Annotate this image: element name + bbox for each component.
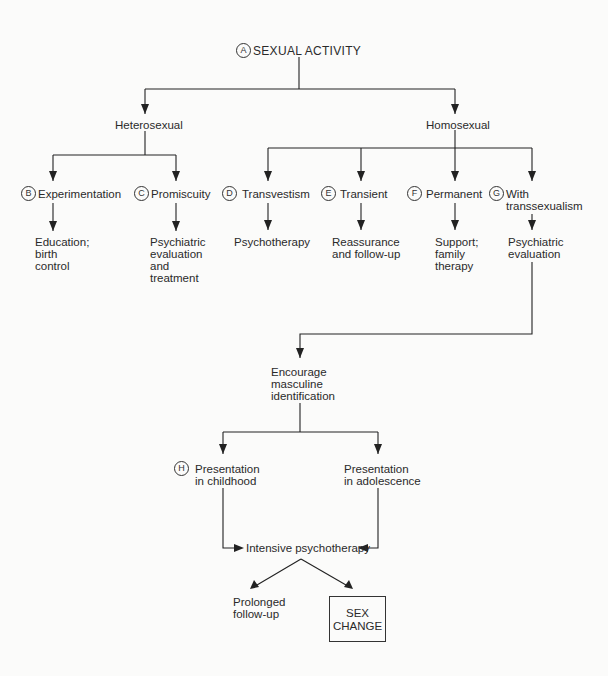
node-transvestism: Transvestism bbox=[242, 188, 310, 200]
node-intensive-psychotherapy: Intensive psychotherapy bbox=[246, 542, 370, 554]
badge-h: H bbox=[174, 461, 189, 476]
node-promiscuity: Promiscuity bbox=[151, 188, 210, 200]
badge-b: B bbox=[21, 186, 36, 201]
node-support-family-therapy: Support; family therapy bbox=[435, 236, 478, 272]
node-experimentation: Experimentation bbox=[38, 188, 121, 200]
node-psychotherapy: Psychotherapy bbox=[234, 236, 310, 248]
node-transient: Transient bbox=[340, 188, 388, 200]
node-reassurance-follow-up: Reassurance and follow-up bbox=[332, 236, 400, 260]
badge-g: G bbox=[489, 186, 504, 201]
node-prolonged-follow-up: Prolonged follow-up bbox=[233, 596, 285, 620]
node-psychiatric-evaluation-treatment: Psychiatric evaluation and treatment bbox=[150, 236, 206, 284]
node-sex-change-box: SEX CHANGE bbox=[329, 596, 386, 642]
node-homosexual: Homosexual bbox=[426, 119, 490, 131]
badge-f: F bbox=[407, 186, 422, 201]
connector-lines bbox=[0, 0, 608, 676]
node-permanent: Permanent bbox=[426, 188, 482, 200]
node-psychiatric-evaluation: Psychiatric evaluation bbox=[508, 236, 564, 260]
badge-e: E bbox=[321, 186, 336, 201]
badge-d: D bbox=[222, 186, 237, 201]
node-presentation-childhood: Presentation in childhood bbox=[195, 463, 260, 487]
node-sexual-activity: SEXUAL ACTIVITY bbox=[253, 45, 361, 57]
node-with-transsexualism: With transsexualism bbox=[506, 188, 583, 212]
node-education-birth-control: Education; birth control bbox=[35, 236, 89, 272]
flowchart-canvas: A SEXUAL ACTIVITY Heterosexual Homosexua… bbox=[0, 0, 608, 676]
node-heterosexual: Heterosexual bbox=[115, 119, 183, 131]
node-encourage-masculine-identification: Encourage masculine identification bbox=[271, 366, 335, 402]
badge-c: C bbox=[134, 186, 149, 201]
node-presentation-adolescence: Presentation in adolescence bbox=[344, 463, 421, 487]
badge-a: A bbox=[236, 43, 251, 58]
